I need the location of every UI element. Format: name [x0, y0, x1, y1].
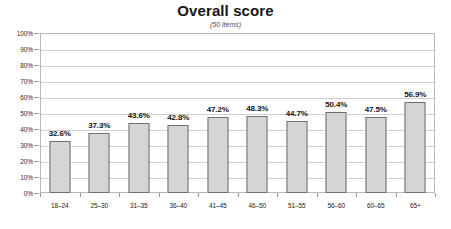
bar-group: 47.2% [198, 33, 238, 193]
y-tick-mark [34, 161, 39, 162]
bar-group: 42.8% [159, 33, 199, 193]
bar-value-label: 44.7% [286, 109, 308, 118]
x-tick-label: 60–65 [356, 202, 396, 210]
bar-value-label: 47.2% [207, 105, 229, 114]
y-tick-label: 40% [20, 126, 33, 133]
x-tick-mark [80, 193, 81, 197]
bar-group: 43.6% [119, 33, 159, 193]
y-tick-mark [34, 81, 39, 82]
bar-value-label: 43.6% [128, 111, 150, 120]
y-tick-mark [34, 33, 39, 34]
y-tick-label: 100% [17, 30, 33, 37]
x-tick-label: 56–60 [317, 202, 357, 210]
y-tick-label: 60% [20, 94, 33, 101]
x-axis: 18–2425–3031–3536–4041–4546–5051–5556–60… [40, 193, 435, 223]
y-tick-mark [34, 65, 39, 66]
y-tick-label: 10% [20, 174, 33, 181]
bar [365, 117, 386, 193]
x-tick-mark [396, 193, 397, 197]
y-tick-label: 90% [20, 46, 33, 53]
bar [247, 116, 268, 193]
bar-value-label: 56.9% [404, 90, 426, 99]
bar [89, 133, 110, 193]
bar-group: 44.7% [277, 33, 317, 193]
x-tick-mark [159, 193, 160, 197]
bar [128, 123, 149, 193]
x-tick-label: 25–30 [80, 202, 120, 210]
bar-group: 37.3% [80, 33, 120, 193]
x-tick-label: 46–50 [238, 202, 278, 210]
overall-score-chart: Overall score (50 items) 100%90%80%70%60… [0, 0, 451, 229]
x-tick-label: 41–45 [198, 202, 238, 210]
y-tick-mark [34, 177, 39, 178]
bar-group: 47.5% [356, 33, 396, 193]
y-tick-label: 0% [24, 190, 33, 197]
y-tick-mark [34, 113, 39, 114]
chart-subtitle: (50 items) [0, 21, 451, 29]
bar [49, 141, 70, 193]
y-axis: 100%90%80%70%60%50%40%30%20%10%0% [0, 33, 37, 193]
bar [286, 121, 307, 193]
bar [168, 125, 189, 193]
bar-group: 48.3% [238, 33, 278, 193]
bar-value-label: 42.8% [167, 113, 189, 122]
y-tick-mark [34, 49, 39, 50]
y-tick-label: 20% [20, 158, 33, 165]
x-tick-label: 65+ [396, 202, 436, 210]
bars-layer: 32.6%37.3%43.6%42.8%47.2%48.3%44.7%50.4%… [40, 33, 435, 193]
bar-value-label: 47.5% [365, 105, 387, 114]
x-tick-mark [238, 193, 239, 197]
x-tick-mark [435, 193, 436, 197]
x-tick-mark [277, 193, 278, 197]
y-tick-label: 30% [20, 142, 33, 149]
x-tick-mark [119, 193, 120, 197]
bar-value-label: 48.3% [246, 104, 268, 113]
y-tick-label: 70% [20, 78, 33, 85]
bar-group: 32.6% [40, 33, 80, 193]
x-tick-label: 51–55 [277, 202, 317, 210]
y-tick-mark [34, 129, 39, 130]
bar [326, 112, 347, 193]
bar-value-label: 32.6% [49, 129, 71, 138]
bar-value-label: 50.4% [325, 100, 347, 109]
x-tick-mark [198, 193, 199, 197]
y-tick-mark [34, 97, 39, 98]
x-tick-mark [40, 193, 41, 197]
bar-group: 56.9% [396, 33, 436, 193]
bar [207, 117, 228, 193]
y-tick-mark [34, 193, 39, 194]
x-tick-mark [317, 193, 318, 197]
chart-title: Overall score [0, 2, 451, 19]
x-tick-label: 18–24 [40, 202, 80, 210]
x-tick-mark [356, 193, 357, 197]
bar-value-label: 37.3% [88, 121, 110, 130]
bar-group: 50.4% [317, 33, 357, 193]
y-tick-label: 80% [20, 62, 33, 69]
bar [405, 102, 426, 193]
x-tick-label: 31–35 [119, 202, 159, 210]
y-tick-label: 50% [20, 110, 33, 117]
x-tick-label: 36–40 [159, 202, 199, 210]
y-tick-mark [34, 145, 39, 146]
